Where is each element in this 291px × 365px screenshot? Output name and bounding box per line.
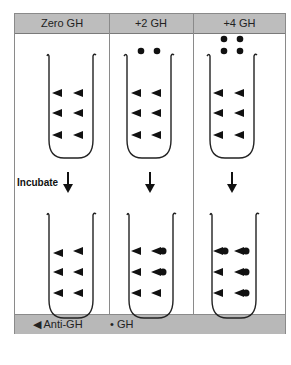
tube-before-zero-gh bbox=[47, 54, 96, 158]
incubate-label: Incubate bbox=[17, 177, 58, 188]
tube-before-plus4-gh bbox=[207, 36, 257, 158]
tube-after-zero-gh bbox=[47, 213, 96, 318]
tube-after-plus2-gh bbox=[127, 213, 176, 318]
incubate-arrow-icon bbox=[63, 172, 237, 193]
tube-after-plus4-gh bbox=[210, 213, 259, 318]
tube-before-plus2-gh bbox=[124, 48, 174, 158]
